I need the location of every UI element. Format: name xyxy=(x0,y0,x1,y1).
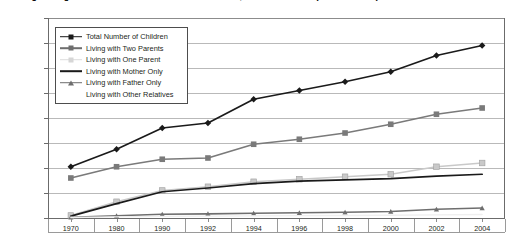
legend-item-label: Total Number of Children xyxy=(86,33,168,40)
x-axis-separator xyxy=(368,219,369,232)
x-axis-minor-tick xyxy=(162,219,163,222)
legend-item-4[interactable]: Living with Mother Only xyxy=(59,66,183,78)
data-point-marker xyxy=(388,121,394,127)
series-line xyxy=(71,108,482,178)
legend-symbol xyxy=(69,34,74,39)
data-point-marker xyxy=(297,136,303,142)
legend-marker-icon xyxy=(59,54,83,65)
legend-item-5[interactable]: Living with Father Only xyxy=(59,77,183,89)
legend-symbol xyxy=(69,57,74,62)
x-axis-minor-tick xyxy=(391,219,392,222)
legend-item-3[interactable]: Living with One Parent xyxy=(59,54,183,66)
x-axis-minor-tick xyxy=(482,219,483,222)
x-axis-minor-tick xyxy=(299,219,300,222)
data-point-marker xyxy=(68,163,75,170)
data-point-marker xyxy=(159,156,165,162)
data-point-marker xyxy=(342,78,349,85)
y-axis-tick xyxy=(44,18,48,19)
y-axis-tick xyxy=(44,168,48,169)
chart-container: Living Arrangements of Children Under 18… xyxy=(0,0,514,242)
legend-line xyxy=(60,70,82,72)
y-axis-tick xyxy=(44,193,48,194)
data-point-marker xyxy=(342,130,348,136)
legend-item-label: Living with One Parent xyxy=(86,56,160,63)
legend-marker-icon xyxy=(59,89,83,100)
legend-item-label: Living with Other Relatives xyxy=(86,91,174,98)
x-axis-separator xyxy=(414,219,415,232)
legend-item-label: Living with Father Only xyxy=(86,79,161,86)
data-point-marker xyxy=(250,96,257,103)
data-point-marker xyxy=(205,155,211,161)
legend-marker-icon xyxy=(59,43,83,54)
legend-item-2[interactable]: Living with Two Parents xyxy=(59,43,183,55)
legend-marker-icon xyxy=(59,66,83,77)
data-point-marker xyxy=(479,42,486,49)
data-point-marker xyxy=(296,87,303,94)
y-axis-tick xyxy=(44,118,48,119)
data-point-marker xyxy=(159,125,166,132)
y-axis-tick xyxy=(44,93,48,94)
x-axis-separator xyxy=(322,219,323,232)
x-axis-separator xyxy=(231,219,232,232)
data-point-marker xyxy=(114,164,120,170)
legend-marker-icon xyxy=(59,77,83,88)
x-axis-separator xyxy=(277,219,278,232)
x-axis-minor-tick xyxy=(436,219,437,222)
data-point-marker xyxy=(387,68,394,75)
x-axis-separator xyxy=(459,219,460,232)
x-axis-separator xyxy=(185,219,186,232)
y-axis-tick xyxy=(44,43,48,44)
legend-item-1[interactable]: Total Number of Children xyxy=(59,31,183,43)
legend-marker-icon xyxy=(59,31,83,42)
data-point-marker xyxy=(342,174,348,180)
x-axis-separator xyxy=(139,219,140,232)
data-point-marker xyxy=(434,164,440,170)
legend-item-label: Living with Two Parents xyxy=(86,45,164,52)
legend-symbol xyxy=(69,46,74,51)
legend-symbol xyxy=(68,80,74,85)
x-axis-minor-tick xyxy=(254,219,255,222)
data-point-marker xyxy=(479,160,485,166)
y-axis-tick xyxy=(44,143,48,144)
chart-legend: Total Number of ChildrenLiving with Two … xyxy=(55,27,188,104)
data-point-marker xyxy=(479,105,485,111)
x-axis-minor-tick xyxy=(71,219,72,222)
x-axis-minor-tick xyxy=(117,219,118,222)
x-axis-minor-tick xyxy=(345,219,346,222)
legend-item-label: Living with Mother Only xyxy=(86,68,163,75)
y-axis-tick xyxy=(44,68,48,69)
series-line xyxy=(71,163,482,216)
data-point-marker xyxy=(113,146,120,153)
data-point-marker xyxy=(433,52,440,59)
data-point-marker xyxy=(251,141,257,147)
x-axis-separator xyxy=(48,219,49,232)
data-point-marker xyxy=(434,111,440,117)
data-point-marker xyxy=(388,171,394,177)
x-axis-separator xyxy=(505,219,506,232)
legend-item-6[interactable]: Living with Other Relatives xyxy=(59,89,183,101)
data-point-marker xyxy=(205,120,212,127)
x-axis-minor-tick xyxy=(208,219,209,222)
data-point-marker xyxy=(68,175,74,181)
x-axis-separator xyxy=(94,219,95,232)
